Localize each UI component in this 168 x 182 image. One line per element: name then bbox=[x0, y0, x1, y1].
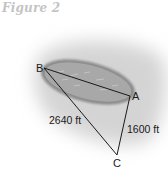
length-label-AC: 1600 ft bbox=[127, 123, 159, 135]
point-label-B: B bbox=[36, 62, 43, 74]
point-label-A: A bbox=[132, 90, 140, 102]
point-label-C: C bbox=[113, 157, 121, 169]
lake-triangle-diagram: B A C 2640 ft 1600 ft bbox=[0, 0, 168, 182]
length-label-BC: 2640 ft bbox=[49, 114, 81, 126]
